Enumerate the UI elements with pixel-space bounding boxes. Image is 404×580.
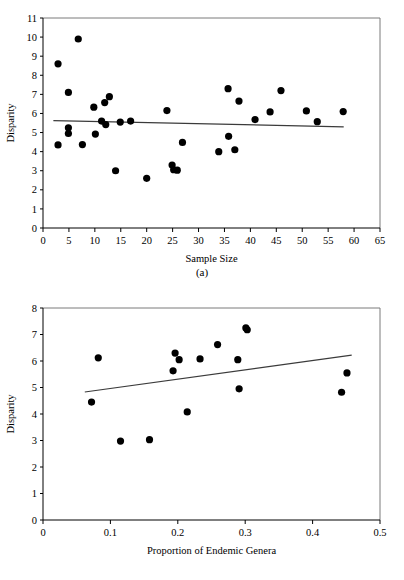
data-point	[117, 437, 124, 444]
trend-line	[53, 121, 343, 127]
plot-frame	[43, 308, 380, 520]
x-tick-label: 60	[349, 235, 360, 246]
x-axis-title: Proportion of Endemic Genera	[147, 545, 277, 556]
data-point	[92, 130, 99, 137]
x-tick-label: 35	[219, 235, 230, 246]
panel-a-caption: (a)	[0, 266, 404, 278]
plot-frame	[43, 18, 380, 228]
x-tick-label: 0.3	[239, 527, 252, 538]
y-tick-label: 9	[32, 51, 37, 62]
data-point	[172, 349, 179, 356]
y-tick-label: 0	[32, 515, 37, 526]
data-point	[90, 104, 97, 111]
data-point	[112, 167, 119, 174]
data-point	[146, 436, 153, 443]
x-tick-label: 0.4	[306, 527, 320, 538]
data-point	[79, 141, 86, 148]
data-point	[101, 99, 108, 106]
data-point	[102, 121, 109, 128]
x-tick-label: 0	[40, 235, 45, 246]
data-point	[234, 356, 241, 363]
data-point	[174, 167, 181, 174]
data-point	[277, 87, 284, 94]
y-tick-label: 2	[32, 462, 37, 473]
x-tick-label: 25	[167, 235, 178, 246]
y-tick-label: 10	[27, 32, 38, 43]
y-tick-label: 3	[32, 435, 37, 446]
x-tick-label: 20	[141, 235, 152, 246]
x-tick-label: 15	[116, 235, 127, 246]
data-point	[214, 341, 221, 348]
x-tick-label: 0.1	[104, 527, 117, 538]
data-point	[88, 398, 95, 405]
x-axis-title: Sample Size	[185, 253, 238, 264]
data-point	[176, 356, 183, 363]
data-point	[95, 354, 102, 361]
trend-line	[85, 355, 352, 392]
scatter-plot-a: 0123456789101105101520253035404550556065…	[0, 0, 404, 266]
data-point	[179, 139, 186, 146]
y-tick-label: 2	[32, 184, 37, 195]
panel-b: 01234567800.10.20.30.40.5Proportion of E…	[0, 290, 404, 580]
y-axis-title: Disparity	[5, 394, 16, 434]
data-point	[225, 133, 232, 140]
data-point	[303, 107, 310, 114]
data-point	[340, 108, 347, 115]
data-point	[54, 141, 61, 148]
y-axis-title: Disparity	[5, 103, 16, 143]
figure-container: 0123456789101105101520253035404550556065…	[0, 0, 404, 580]
x-tick-label: 0.2	[171, 527, 184, 538]
x-tick-label: 0	[40, 527, 45, 538]
data-point	[127, 117, 134, 124]
data-point	[106, 93, 113, 100]
y-tick-label: 11	[27, 13, 37, 24]
data-point	[65, 130, 72, 137]
x-tick-label: 10	[90, 235, 101, 246]
data-point	[169, 367, 176, 374]
data-point	[343, 369, 350, 376]
y-tick-label: 7	[32, 89, 37, 100]
data-point	[65, 89, 72, 96]
x-tick-label: 40	[245, 235, 256, 246]
data-point	[184, 408, 191, 415]
data-point	[231, 146, 238, 153]
x-tick-label: 5	[66, 235, 71, 246]
data-point	[163, 107, 170, 114]
y-tick-label: 4	[32, 409, 38, 420]
x-tick-label: 50	[297, 235, 308, 246]
y-tick-label: 4	[32, 146, 38, 157]
x-tick-label: 65	[375, 235, 386, 246]
y-tick-label: 6	[32, 356, 37, 367]
data-point	[251, 116, 258, 123]
data-point	[266, 108, 273, 115]
y-tick-label: 1	[32, 204, 37, 215]
y-tick-label: 6	[32, 108, 37, 119]
y-tick-label: 3	[32, 165, 37, 176]
x-tick-label: 45	[271, 235, 282, 246]
y-tick-label: 1	[32, 488, 37, 499]
panel-a: 0123456789101105101520253035404550556065…	[0, 0, 404, 290]
data-point	[75, 35, 82, 42]
data-point	[314, 118, 321, 125]
data-point	[143, 175, 150, 182]
y-tick-label: 8	[32, 70, 37, 81]
data-point	[338, 389, 345, 396]
x-tick-label: 30	[193, 235, 204, 246]
data-point	[54, 60, 61, 67]
y-tick-label: 8	[32, 303, 37, 314]
data-point	[117, 118, 124, 125]
data-point	[196, 355, 203, 362]
y-tick-label: 7	[32, 329, 37, 340]
scatter-plot-b: 01234567800.10.20.30.40.5Proportion of E…	[0, 290, 404, 556]
x-tick-label: 0.5	[373, 527, 386, 538]
y-tick-label: 0	[32, 223, 37, 234]
y-tick-label: 5	[32, 382, 37, 393]
data-point	[215, 148, 222, 155]
y-tick-label: 5	[32, 127, 37, 138]
data-point	[224, 85, 231, 92]
data-point	[244, 326, 251, 333]
data-point	[236, 385, 243, 392]
x-tick-label: 55	[323, 235, 334, 246]
data-point	[235, 97, 242, 104]
